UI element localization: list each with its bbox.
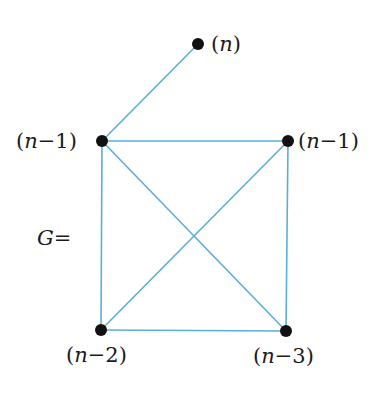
- node-label-v3: (n−1): [298, 129, 359, 153]
- node-v2: [96, 135, 108, 147]
- node-v1: [192, 38, 204, 50]
- edge-v1-v2: [102, 44, 198, 141]
- edges: [101, 44, 288, 331]
- graph-label: G=: [37, 226, 71, 250]
- node-label-v1: (n): [211, 32, 241, 56]
- nodes: [95, 38, 294, 337]
- edge-v4-v5: [101, 330, 286, 331]
- edge-v2-v4: [101, 141, 102, 330]
- node-label-v2: (n−1): [16, 129, 77, 153]
- node-v5: [280, 325, 292, 337]
- edge-v3-v5: [286, 141, 288, 331]
- node-label-v4: (n−2): [66, 343, 127, 367]
- node-v4: [95, 324, 107, 336]
- node-label-v5: (n−3): [253, 344, 314, 368]
- node-v3: [282, 135, 294, 147]
- graph-diagram: (n) (n−1) (n−1) (n−2) (n−3) G=: [0, 0, 390, 394]
